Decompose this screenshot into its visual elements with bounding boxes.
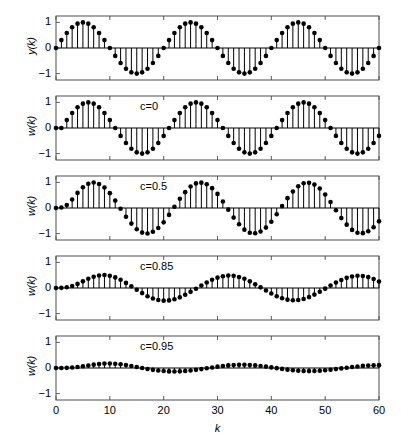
annotation-c-2: c=0.5 xyxy=(140,180,167,192)
y-tick-label: −1 xyxy=(31,307,51,319)
y-tick-label: 1 xyxy=(31,175,51,187)
y-tick-label: −1 xyxy=(31,67,51,79)
x-tick-label: 10 xyxy=(95,404,125,416)
subplot-2 xyxy=(0,174,401,242)
x-tick-label: 60 xyxy=(364,404,394,416)
y-axis-label-2: w(k) xyxy=(25,189,37,223)
subplot-4 xyxy=(0,334,401,402)
y-tick-label: 1 xyxy=(31,335,51,347)
y-tick-label: −1 xyxy=(31,387,51,399)
y-tick-label: −1 xyxy=(31,147,51,159)
y-tick-label: 1 xyxy=(31,15,51,27)
y-tick-label: 1 xyxy=(31,255,51,267)
subplot-3 xyxy=(0,254,401,322)
annotation-c-4: c=0.95 xyxy=(140,340,173,352)
x-tick-label: 50 xyxy=(310,404,340,416)
x-axis-label: k xyxy=(198,422,238,434)
annotation-c-3: c=0.85 xyxy=(140,260,173,272)
x-tick-label: 0 xyxy=(41,404,71,416)
x-tick-label: 30 xyxy=(203,404,233,416)
y-tick-label: 1 xyxy=(31,95,51,107)
y-tick-label: −1 xyxy=(31,227,51,239)
subplot-1 xyxy=(0,94,401,162)
y-axis-label-3: w(k) xyxy=(25,269,37,303)
y-axis-label-0: y(k) xyxy=(25,29,37,63)
y-axis-label-1: w(k) xyxy=(25,109,37,143)
x-tick-label: 40 xyxy=(256,404,286,416)
x-tick-label: 20 xyxy=(149,404,179,416)
subplot-0 xyxy=(0,14,401,82)
annotation-c-1: c=0 xyxy=(140,100,158,112)
y-axis-label-4: w(k) xyxy=(25,349,37,383)
